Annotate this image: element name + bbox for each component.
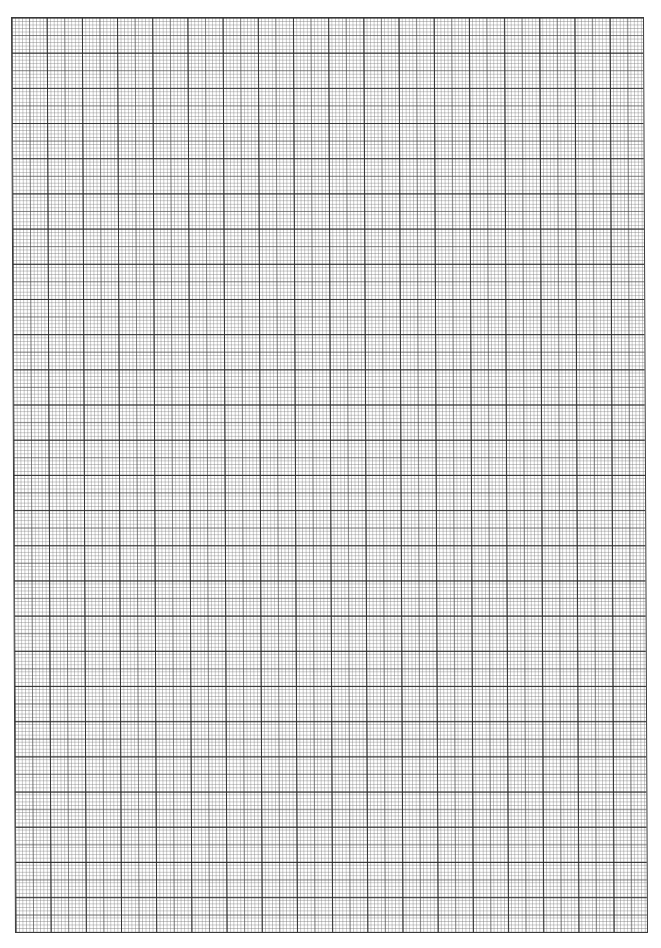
graph-paper-grid: graph-paper (11, 17, 648, 933)
